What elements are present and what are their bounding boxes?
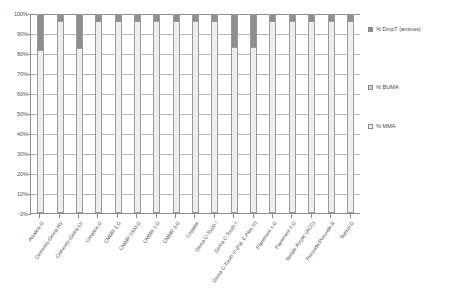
bar-slot <box>321 14 340 213</box>
x-label-slot: Sutton G <box>341 218 360 292</box>
x-axis-tick-label: Alcaline G <box>26 220 44 242</box>
bar[interactable] <box>173 14 180 213</box>
plot-area <box>30 14 360 214</box>
bar-segment <box>251 47 256 212</box>
x-label-slot: CMMR 2000 G <box>127 218 146 292</box>
stacked-bar-chart: 100%90%80%70%60%50%40%30%20%10%0% Alcali… <box>0 0 449 295</box>
y-axis-tickmark <box>28 154 31 155</box>
bar-slot <box>108 14 127 213</box>
y-axis-tickmark <box>28 114 31 115</box>
bar[interactable] <box>37 14 44 213</box>
legend-swatch-icon <box>368 27 373 32</box>
bar-slot <box>31 14 50 213</box>
bar[interactable] <box>153 14 160 213</box>
y-axis-tickmark <box>28 54 31 55</box>
y-axis-tick-label: 0% <box>0 211 28 217</box>
y-axis-tick-label: 30% <box>0 151 28 157</box>
legend-item[interactable]: % BUMA <box>368 84 399 91</box>
x-label-slot: Cemento-Gema LV <box>69 218 88 292</box>
bar-segment <box>348 21 353 212</box>
bar-segment <box>309 21 314 212</box>
bar-segment <box>77 48 82 212</box>
legend-swatch-icon <box>368 124 373 129</box>
bar-segment <box>38 15 43 50</box>
bar-slot <box>205 14 224 213</box>
bar[interactable] <box>115 14 122 213</box>
bar-slot <box>128 14 147 213</box>
bar-slot <box>302 14 321 213</box>
bar[interactable] <box>250 14 257 213</box>
bar-segment <box>290 21 295 212</box>
bar[interactable] <box>289 14 296 213</box>
y-axis-tickmark <box>28 74 31 75</box>
bar[interactable] <box>76 14 83 213</box>
bar-segment <box>77 15 82 48</box>
legend-label: % DmpT (amines) <box>376 26 421 33</box>
bar-segment <box>232 47 237 212</box>
bar-slot <box>50 14 69 213</box>
x-label-slot: Copalite <box>185 218 204 292</box>
legend-label: % BUMA <box>376 84 399 91</box>
bar-segment <box>251 15 256 47</box>
y-axis-tickmark <box>28 14 31 15</box>
bar-slot <box>147 14 166 213</box>
legend-item[interactable]: % MMA <box>368 123 396 130</box>
y-axis-tickmark <box>28 34 31 35</box>
y-axis-labels: 100%90%80%70%60%50%40%30%20%10%0% <box>0 14 28 214</box>
x-label-slot: CMMR 3 G <box>166 218 185 292</box>
bar-segment <box>135 21 140 212</box>
y-axis-tick-label: 90% <box>0 31 28 37</box>
bar-slot <box>263 14 282 213</box>
bar-slot <box>244 14 263 213</box>
bar[interactable] <box>308 14 315 213</box>
bar-segment <box>96 21 101 212</box>
y-axis-tick-label: 50% <box>0 111 28 117</box>
bar-segment <box>116 21 121 212</box>
x-label-slot: Pavement II G <box>263 218 282 292</box>
y-axis-tickmark <box>28 134 31 135</box>
bar[interactable] <box>134 14 141 213</box>
bar-segment <box>212 21 217 212</box>
bar-slot <box>167 14 186 213</box>
y-axis-tick-label: 70% <box>0 71 28 77</box>
y-axis-tick-label: 60% <box>0 91 28 97</box>
bar-segment <box>270 21 275 212</box>
bar[interactable] <box>347 14 354 213</box>
bar[interactable] <box>192 14 199 213</box>
y-axis-tickmark <box>28 174 31 175</box>
legend-item[interactable]: % DmpT (amines) <box>368 26 421 33</box>
bar[interactable] <box>269 14 276 213</box>
bar-segment <box>58 21 63 212</box>
x-axis-tick-label: Copalite <box>184 220 200 239</box>
y-axis-tick-label: 80% <box>0 51 28 57</box>
y-axis-tick-label: 10% <box>0 191 28 197</box>
bar[interactable] <box>57 14 64 213</box>
x-axis-labels: Alcaline GCemento-Gema HVCemento-Gema LV… <box>30 218 360 292</box>
x-label-slot: CMMR 2 G <box>146 218 165 292</box>
bar-slot <box>89 14 108 213</box>
x-label-slot: Gema C-Tooth III (Pal. E Plus III) <box>243 218 262 292</box>
bar-slot <box>283 14 302 213</box>
y-axis-tick-label: 40% <box>0 131 28 137</box>
bar-segment <box>232 15 237 47</box>
x-label-slot: Creatine G <box>88 218 107 292</box>
bar-slot <box>186 14 205 213</box>
legend-swatch-icon <box>368 85 373 90</box>
y-axis-tickmark <box>28 194 31 195</box>
bar[interactable] <box>95 14 102 213</box>
bar[interactable] <box>328 14 335 213</box>
legend-label: % MMA <box>376 123 396 130</box>
bar-slot <box>341 14 360 213</box>
bar-segment <box>174 21 179 212</box>
bar-segment <box>193 21 198 212</box>
bar-segment <box>154 21 159 212</box>
bar-series-container <box>31 14 360 213</box>
y-axis-tick-label: 20% <box>0 171 28 177</box>
y-axis-tickmark <box>28 94 31 95</box>
x-axis-tick-label: Sutton G <box>339 220 355 240</box>
x-label-slot: Peroxide/Peroxide R <box>321 218 340 292</box>
bar[interactable] <box>211 14 218 213</box>
x-label-slot: CMMR 1 G <box>108 218 127 292</box>
bar[interactable] <box>231 14 238 213</box>
bar-segment <box>329 21 334 212</box>
